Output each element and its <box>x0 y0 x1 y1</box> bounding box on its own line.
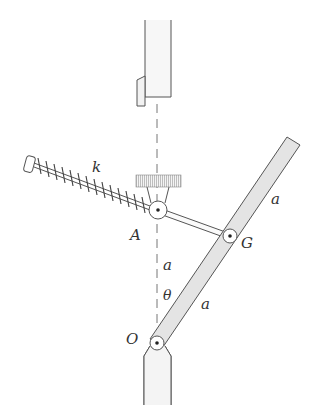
main-bar <box>150 137 300 347</box>
lower-support <box>144 346 171 405</box>
link-rod <box>157 208 231 239</box>
upper-guide-block <box>137 20 171 106</box>
mechanism-diagram: k A G O a a θ a <box>0 0 316 417</box>
spring <box>23 155 150 213</box>
label-pin-o: O <box>126 330 138 348</box>
pin-o <box>150 336 164 350</box>
label-lower-bar-length: a <box>201 295 210 313</box>
label-angle-theta: θ <box>163 287 172 303</box>
label-pin-a: A <box>128 226 141 244</box>
pin-a <box>149 201 167 219</box>
guide-tab <box>137 76 145 106</box>
spring-end-loop <box>23 155 36 173</box>
pin-g <box>223 229 237 243</box>
label-upper-bar-length: a <box>271 190 280 208</box>
label-pin-g: G <box>241 234 253 252</box>
label-spring-k: k <box>92 158 101 176</box>
label-vertical-distance: a <box>163 256 172 274</box>
